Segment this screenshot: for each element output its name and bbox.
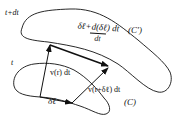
curve-label-c-prime: (C')	[128, 26, 142, 35]
vector-label-delta-l: δℓ	[48, 97, 56, 106]
curve-label-c: (C)	[124, 98, 136, 107]
vector-label-v-r-dt: v(r) dt	[50, 69, 70, 77]
time-label-t-plus-dt: t+dt	[5, 9, 19, 17]
vector-delta-l	[40, 97, 72, 103]
vector-v-r-dt	[40, 45, 50, 97]
diagram-svg	[0, 0, 174, 121]
vector-label-delta-l-new: δℓ+d(δℓ) dt dt	[66, 21, 129, 45]
diagram-canvas: t+dt t (C') (C) δℓ v(r) dt v(r+δℓ) dt δℓ…	[0, 0, 174, 121]
vector-label-v-r-plus-dl-dt: v(r+δℓ) dt	[88, 86, 120, 94]
time-label-t: t	[11, 59, 13, 67]
